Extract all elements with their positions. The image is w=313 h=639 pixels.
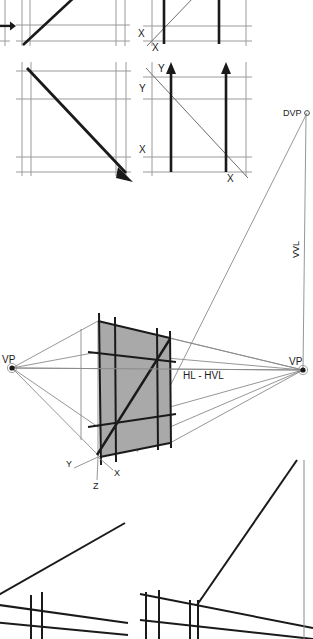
label-x-mid-right-1: X [139, 144, 146, 155]
grid-lines-mid-right [143, 62, 252, 176]
grid-lines-top-right [143, 0, 252, 46]
label-vp-right: VP [289, 356, 303, 367]
panel-mid-left [16, 62, 133, 182]
label-hl-hvl: HL - HVL [183, 370, 224, 381]
label-y-mid-right-2: Y [139, 83, 146, 94]
panel-bottom-right [140, 460, 313, 639]
label-x-mid-right-2: X [227, 173, 234, 184]
central-perspective-construction: VP VP HL - HVL Y X Z [2, 313, 308, 491]
label-dvp: DVP [283, 108, 302, 118]
panel-top-right: X X [138, 0, 252, 53]
thin-diagonal-top-right [147, 0, 195, 46]
panel-bottom-left [0, 523, 128, 639]
xyz-axis-indicator: Y X Z [66, 457, 120, 491]
label-axis-y: Y [66, 459, 72, 469]
label-y-mid-right-1: Y [158, 63, 165, 74]
label-vp-left: VP [2, 354, 16, 365]
thin-diagonal-mid-right [146, 68, 248, 178]
label-vvl: VVL [291, 241, 301, 258]
up-arrow-a-mid-right [166, 62, 176, 172]
vertical-vanishing-line [303, 116, 306, 370]
up-arrow-b-mid-right [221, 62, 231, 172]
vp-left-marker [9, 365, 14, 370]
label-x-top-right-1: X [138, 28, 145, 39]
vp-right-marker [300, 367, 305, 372]
descending-arrow-mid-left [27, 68, 133, 182]
label-axis-z: Z [93, 481, 99, 491]
panel-top-left [0, 0, 130, 46]
ascending-diagonal-top-left [23, 0, 80, 45]
label-x-top-right-2: X [152, 42, 159, 53]
diagram-canvas: X X [0, 0, 313, 639]
perspective-construction-figure: X X [0, 0, 313, 639]
label-axis-x: X [114, 468, 120, 478]
panel-mid-right: Y Y X X [139, 62, 252, 184]
arrow-left-edge [0, 22, 16, 31]
